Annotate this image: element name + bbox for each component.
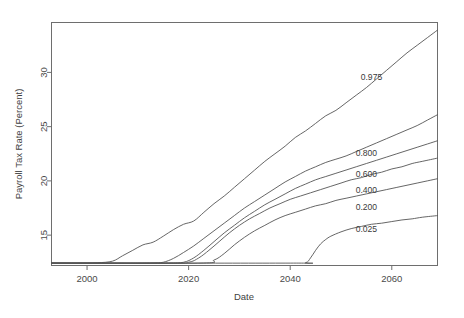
x-axis-ticks (87, 266, 392, 271)
y-tick-label: 20 (38, 176, 49, 187)
curve-label-0-800: 0.800 (356, 148, 378, 158)
y-axis-title: Payroll Tax Rate (Percent) (13, 89, 24, 200)
quantile-curves (52, 30, 438, 263)
y-tick-label: 15 (38, 230, 49, 241)
x-tick-label: 2000 (76, 273, 97, 284)
x-axis-tick-labels: 2000202020402060 (76, 273, 402, 284)
quantile-curve-0-800 (52, 115, 438, 263)
y-tick-label: 30 (38, 67, 49, 78)
x-tick-label: 2020 (178, 273, 199, 284)
quantile-curve-0-025 (52, 216, 438, 264)
chart-figure: 15202530 2000202020402060 Payroll Tax Ra… (0, 0, 464, 318)
curve-label-0-400: 0.400 (356, 185, 378, 195)
curve-label-0-200: 0.200 (356, 202, 378, 212)
x-tick-label: 2060 (381, 273, 402, 284)
plot-frame (52, 23, 438, 266)
quantile-curve-0-600 (52, 141, 438, 263)
curve-label-0-975: 0.975 (361, 72, 383, 82)
quantile-curve-0-200 (52, 179, 438, 264)
y-tick-label: 25 (38, 121, 49, 132)
y-axis-ticks (47, 72, 52, 235)
quantile-curve-0-975 (52, 30, 438, 263)
quantile-curve-labels: 0.9750.8000.6000.4000.2000.025 (356, 72, 383, 234)
x-axis-title: Date (234, 291, 254, 302)
curve-label-0-600: 0.600 (356, 169, 378, 179)
x-tick-label: 2040 (280, 273, 301, 284)
quantile-curve-0-400 (52, 158, 438, 263)
y-axis-tick-labels: 15202530 (38, 67, 49, 240)
curve-label-0-025: 0.025 (356, 224, 378, 234)
payroll-tax-rate-quantile-chart: 15202530 2000202020402060 Payroll Tax Ra… (0, 0, 464, 318)
